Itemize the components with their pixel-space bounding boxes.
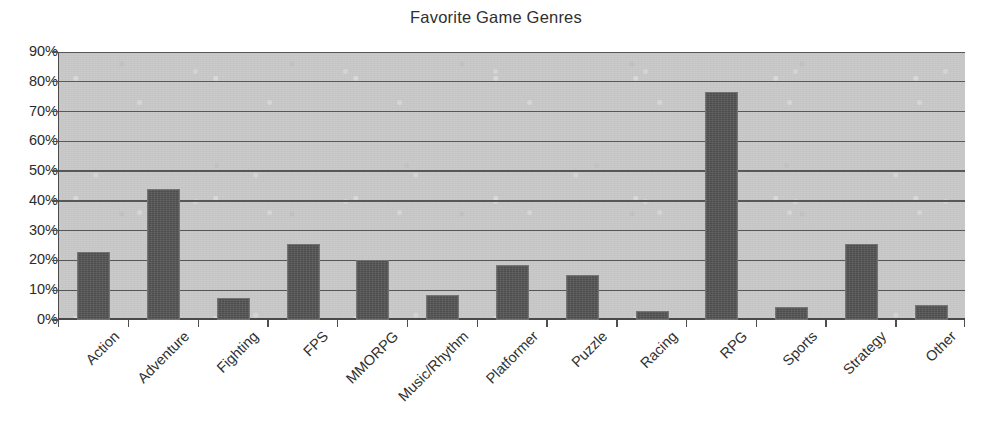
x-axis-tick-mark (128, 320, 129, 327)
bar (356, 260, 389, 320)
x-axis-tick-label: Other (922, 328, 959, 365)
x-axis-tick-mark (337, 320, 338, 327)
bar (77, 252, 110, 320)
bar (845, 244, 878, 320)
x-axis-tick-label: MMORPG (343, 328, 402, 387)
bar (636, 311, 669, 320)
x-axis-tick-label: Music/Rhythm (395, 328, 471, 404)
x-axis-tick-label: Adventure (134, 328, 192, 386)
bars-layer (59, 52, 965, 320)
x-axis-tick-mark (616, 320, 617, 327)
y-axis-tick-label: 10% (6, 281, 58, 297)
x-axis-tick-mark (756, 320, 757, 327)
plot-area (58, 52, 965, 320)
bar (915, 305, 948, 320)
y-axis-tick-label: 70% (6, 103, 58, 119)
bar (287, 244, 320, 320)
x-axis-tick-label: Strategy (840, 328, 889, 377)
y-axis: 0%10%20%30%40%50%60%70%80%90% (0, 52, 58, 320)
x-axis-tick-mark (267, 320, 268, 327)
chart-title: Favorite Game Genres (0, 8, 992, 27)
x-axis-tick-mark (825, 320, 826, 327)
bar (426, 295, 459, 320)
x-axis (58, 320, 965, 328)
y-axis-tick-label: 80% (6, 73, 58, 89)
bar-chart: Favorite Game Genres 0%10%20%30%40%50%60… (0, 0, 992, 445)
x-axis-tick-label: Platformer (482, 328, 541, 387)
x-axis-tick-label: RPG (717, 328, 751, 362)
bar (147, 189, 180, 320)
y-axis-tick-label: 90% (6, 43, 58, 59)
bar (566, 275, 599, 320)
x-axis-tick-mark (198, 320, 199, 327)
x-axis-tick-label: Puzzle (568, 328, 610, 370)
x-axis-tick-mark (407, 320, 408, 327)
x-axis-tick-mark (686, 320, 687, 327)
bar (217, 298, 250, 320)
y-axis-tick-label: 30% (6, 222, 58, 238)
y-axis-tick-label: 50% (6, 162, 58, 178)
x-axis-tick-label: FPS (300, 328, 331, 359)
x-axis-tick-mark (895, 320, 896, 327)
x-axis-tick-label: Sports (779, 328, 820, 369)
bar (496, 265, 529, 320)
y-axis-tick-label: 0% (6, 311, 58, 327)
y-axis-tick-label: 20% (6, 251, 58, 267)
bar (775, 307, 808, 320)
bar (705, 92, 738, 320)
x-axis-labels: ActionAdventureFightingFPSMMORPGMusic/Rh… (58, 328, 965, 438)
y-axis-tick-label: 40% (6, 192, 58, 208)
x-axis-tick-mark (58, 320, 59, 327)
y-axis-tick-label: 60% (6, 132, 58, 148)
x-axis-tick-mark (477, 320, 478, 327)
x-axis-tick-label: Racing (637, 328, 680, 371)
x-axis-tick-mark (546, 320, 547, 327)
x-axis-tick-mark (964, 320, 965, 327)
x-axis-tick-label: Action (82, 328, 122, 368)
x-axis-tick-label: Fighting (214, 328, 262, 376)
